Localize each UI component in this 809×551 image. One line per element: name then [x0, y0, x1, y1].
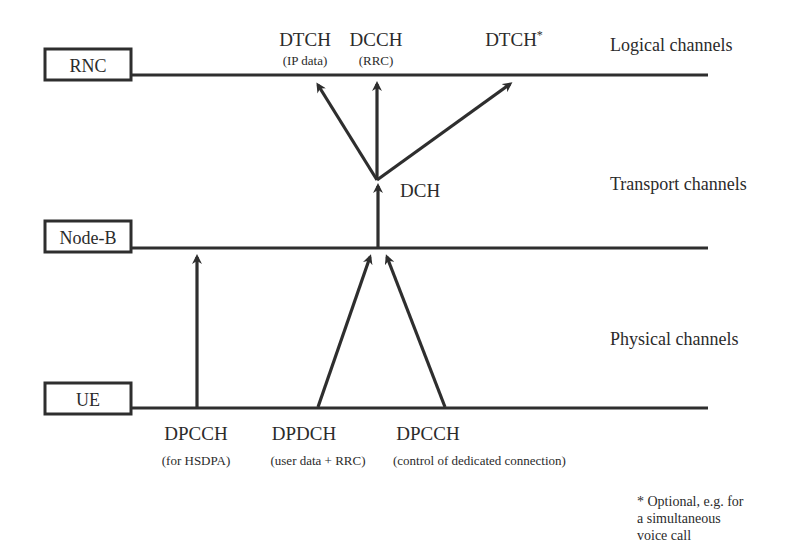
ue-label: UE — [76, 390, 100, 410]
channel-mapping-diagram: RNC Node-B UE Logical channels Transport… — [0, 0, 809, 551]
transport-dch-label: DCH — [400, 180, 440, 201]
logical-dtch-ip-name: DTCH — [279, 29, 331, 50]
logical-dtch-optional-name: DTCH* — [485, 28, 543, 50]
footnote-line-3: voice call — [637, 528, 691, 543]
logical-dtch-optional-text: DTCH — [485, 29, 537, 50]
footnote-line-1: * Optional, e.g. for — [637, 494, 744, 509]
physical-dpcch-control-note: (control of dedicated connection) — [393, 453, 566, 468]
logical-dcch-note: (RRC) — [359, 53, 394, 68]
ue-node: UE — [45, 383, 131, 414]
arrow-dch-to-dtch-optional — [377, 84, 510, 180]
physical-dpcch-control-name: DPCCH — [396, 423, 460, 444]
nodeb-label: Node-B — [60, 228, 117, 248]
logical-dcch-name: DCCH — [350, 29, 403, 50]
rnc-node: RNC — [45, 49, 131, 80]
layer-logical-label: Logical channels — [610, 35, 732, 55]
footnote: * Optional, e.g. for a simultaneous voic… — [637, 494, 744, 543]
layer-physical-label: Physical channels — [610, 329, 738, 349]
nodeb-node: Node-B — [45, 221, 131, 252]
physical-dpdch-note: (user data + RRC) — [270, 453, 365, 468]
footnote-line-2: a simultaneous — [637, 511, 721, 526]
arrow-dch-to-dtch-ip — [318, 85, 377, 180]
optional-asterisk: * — [537, 28, 543, 42]
arrow-ue-dpcch-control — [387, 257, 445, 407]
arrow-ue-dpdch — [318, 257, 370, 407]
rnc-label: RNC — [69, 56, 106, 76]
physical-dpcch-hsdpa-name: DPCCH — [164, 423, 228, 444]
physical-dpdch-name: DPDCH — [272, 423, 337, 444]
layer-transport-label: Transport channels — [610, 174, 747, 194]
logical-dtch-ip-note: (IP data) — [283, 53, 328, 68]
physical-dpcch-hsdpa-note: (for HSDPA) — [162, 453, 231, 468]
